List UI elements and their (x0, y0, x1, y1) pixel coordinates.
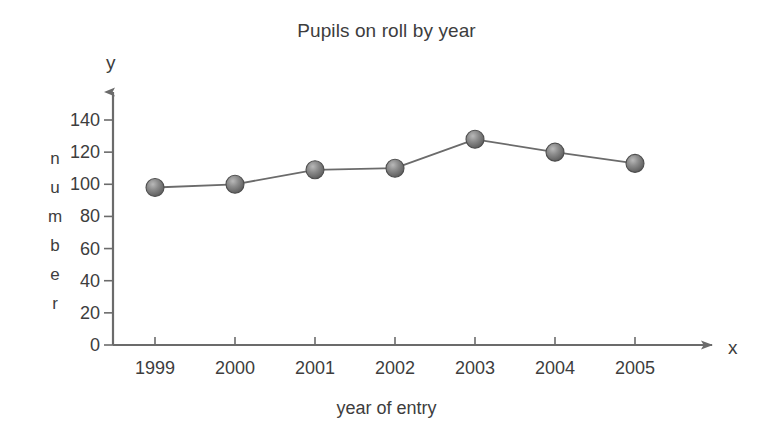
x-tick-marks (155, 337, 635, 345)
data-point (626, 154, 644, 172)
data-point (466, 130, 484, 148)
data-point (306, 161, 324, 179)
chart-page: Pupils on roll by year y x n u m b e r y… (0, 0, 773, 444)
data-point-group (146, 130, 644, 196)
data-point (546, 143, 564, 161)
data-point (226, 175, 244, 193)
y-tick-marks (104, 120, 113, 345)
data-point (146, 179, 164, 197)
data-point (386, 159, 404, 177)
plot-area (0, 0, 773, 444)
